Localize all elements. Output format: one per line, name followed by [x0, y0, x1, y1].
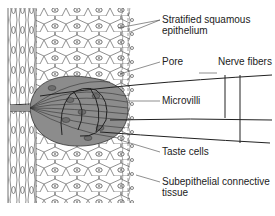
- label-subepithelial-line2: tissue: [162, 187, 270, 198]
- label-taste-cells: Taste cells: [162, 146, 209, 157]
- label-stratified-squamous-epithelium: Stratified squamous epithelium: [162, 14, 250, 36]
- label-subepithelial-line1: Subepithelial connective: [162, 176, 270, 187]
- label-nerve-fibers: Nerve fibers: [218, 56, 272, 67]
- label-stratified-line2: epithelium: [162, 25, 250, 36]
- label-stratified-line1: Stratified squamous: [162, 14, 250, 25]
- label-microvilli: Microvilli: [162, 95, 200, 106]
- label-pore: Pore: [162, 56, 183, 67]
- label-subepithelial-connective-tissue: Subepithelial connective tissue: [162, 176, 270, 198]
